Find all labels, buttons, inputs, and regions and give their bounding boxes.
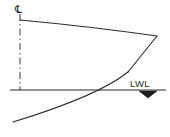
lwl-label: LWL xyxy=(130,78,150,89)
hull-section-drawing: ℄ LWL xyxy=(0,0,170,137)
hull-section-diagram: ℄ LWL xyxy=(0,0,170,137)
centerline-symbol-icon: ℄ xyxy=(14,3,22,15)
